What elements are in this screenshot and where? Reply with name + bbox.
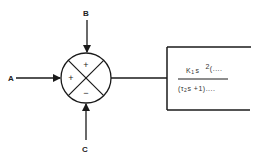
summing-junction: + + − xyxy=(61,53,111,103)
denominator: (τ2s +1).... xyxy=(178,85,215,93)
input-b: B xyxy=(83,9,89,52)
transfer-block: K1s2(.... (τ2s +1).... xyxy=(167,47,251,110)
input-c-label: C xyxy=(82,145,88,154)
input-c: C xyxy=(82,104,88,154)
numerator: K1s2(.... xyxy=(186,63,222,75)
input-a-label: A xyxy=(8,74,14,83)
sign-bottom: − xyxy=(83,88,88,98)
input-b-label: B xyxy=(83,9,89,18)
sign-top: + xyxy=(83,60,88,70)
block-diagram: B A C + + − K1s2(.... (τ2s +1).... xyxy=(0,0,257,163)
input-a: A xyxy=(8,74,60,83)
sign-left: + xyxy=(68,73,73,83)
